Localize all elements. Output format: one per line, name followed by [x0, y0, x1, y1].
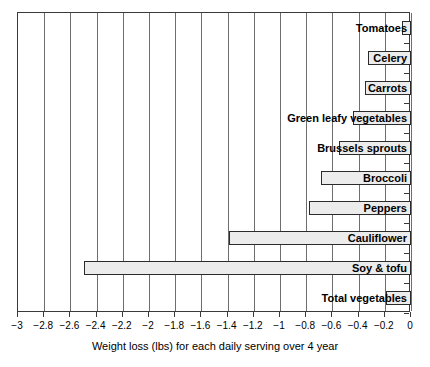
x-tick-mark: [200, 312, 201, 317]
y-tick-mark: [404, 163, 409, 164]
bar-category-label: Brussels sprouts: [317, 142, 407, 154]
x-tick-mark: [96, 312, 97, 317]
x-tick-label: −0.8: [295, 320, 315, 331]
x-tick-label: −0.2: [374, 320, 394, 331]
x-tick-mark: [358, 312, 359, 317]
x-tick-mark: [148, 312, 149, 317]
x-tick-label: −2: [142, 320, 153, 331]
y-tick-mark: [404, 43, 409, 44]
x-tick-label: −2.6: [60, 320, 80, 331]
y-tick-mark: [404, 133, 409, 134]
plot-area: TomatoesCeleryCarrotsGreen leafy vegetab…: [17, 12, 410, 312]
x-tick-mark: [17, 312, 18, 317]
x-tick-mark: [384, 312, 385, 317]
x-tick-label: −3: [11, 320, 22, 331]
x-tick-label: −1.8: [164, 320, 184, 331]
bar-category-label: Carrots: [368, 82, 407, 94]
x-tick-label: −2.2: [112, 320, 132, 331]
x-tick-label: −1: [273, 320, 284, 331]
y-tick-mark: [404, 283, 409, 284]
gridline: [411, 13, 412, 311]
x-tick-label: −2.8: [33, 320, 53, 331]
x-tick-mark: [69, 312, 70, 317]
gridline: [70, 13, 71, 311]
y-tick-mark: [404, 253, 409, 254]
x-tick-mark: [305, 312, 306, 317]
x-axis-title: Weight loss (lbs) for each daily serving…: [0, 340, 430, 352]
x-tick-label: −2.4: [86, 320, 106, 331]
x-tick-mark: [279, 312, 280, 317]
weight-loss-bar-chart: TomatoesCeleryCarrotsGreen leafy vegetab…: [0, 0, 430, 367]
x-tick-mark: [410, 312, 411, 317]
x-tick-mark: [253, 312, 254, 317]
x-tick-label: −0.4: [348, 320, 368, 331]
x-tick-mark: [227, 312, 228, 317]
x-tick-label: −0.6: [322, 320, 342, 331]
x-tick-mark: [174, 312, 175, 317]
bar-category-label: Total vegetables: [322, 292, 407, 304]
y-tick-mark: [404, 73, 409, 74]
bar-category-label: Peppers: [364, 202, 407, 214]
x-tick-label: −1.6: [191, 320, 211, 331]
bar-category-label: Tomatoes: [356, 22, 407, 34]
x-tick-label: 0: [407, 320, 413, 331]
x-tick-mark: [331, 312, 332, 317]
y-tick-mark: [404, 103, 409, 104]
bar-category-label: Broccoli: [363, 172, 407, 184]
x-tick-mark: [122, 312, 123, 317]
gridline: [44, 13, 45, 311]
x-tick-label: −1.4: [217, 320, 237, 331]
bar-category-label: Celery: [373, 52, 407, 64]
bar-category-label: Soy & tofu: [352, 262, 407, 274]
y-tick-mark: [404, 313, 409, 314]
bar-category-label: Cauliflower: [348, 232, 407, 244]
x-tick-label: −1.2: [243, 320, 263, 331]
y-tick-mark: [404, 223, 409, 224]
y-tick-mark: [404, 193, 409, 194]
x-tick-mark: [43, 312, 44, 317]
bar-category-label: Green leafy vegetables: [287, 112, 407, 124]
